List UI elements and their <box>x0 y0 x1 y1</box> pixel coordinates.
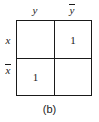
kmap-cell-x-ybar: 1 <box>54 21 91 58</box>
kmap-cell-xbar-y: 1 <box>17 58 54 95</box>
kmap-cell-x-y <box>17 21 54 58</box>
figure-caption: (b) <box>0 101 99 117</box>
kmap-cell-xbar-ybar <box>54 58 91 95</box>
column-label-y-bar: y <box>59 3 85 18</box>
row-label-x-bar: x <box>1 63 15 78</box>
column-label-y-bar-text: y <box>69 3 75 18</box>
row-label-x-text: x <box>6 34 11 46</box>
row-label-x-bar-text: x <box>5 63 11 78</box>
column-label-y-text: y <box>33 4 38 16</box>
kmap-grid: 1 1 <box>16 20 92 96</box>
column-label-y: y <box>22 3 48 18</box>
row-label-x: x <box>1 33 15 48</box>
karnaugh-map-figure: y y x x 1 1 (b) <box>0 0 99 122</box>
